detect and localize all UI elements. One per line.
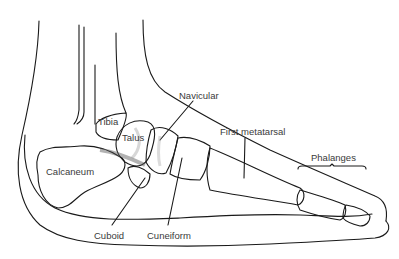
fibula-shaft: [74, 25, 79, 124]
label-phalanges: Phalanges: [311, 153, 356, 163]
label-tibia: Tibia: [98, 117, 118, 127]
label-talus: Talus: [122, 133, 144, 143]
navicular-bone: [146, 128, 178, 174]
foot-anatomy-diagram: Tibia Talus Navicular First metatarsal P…: [0, 0, 399, 259]
first-metatarsal-leader: [244, 138, 245, 178]
cuneiform-bone: [170, 137, 210, 180]
phalanges-bracket: [298, 164, 366, 169]
foot-outline-drawing: [0, 0, 399, 259]
cuboid-bone: [128, 166, 150, 188]
leg-front-dorsum: [143, 20, 387, 221]
label-first-metatarsal: First metatarsal: [220, 127, 285, 137]
label-cuneiform: Cuneiform: [147, 231, 191, 241]
heel-contour: [24, 135, 372, 219]
label-calcaneum: Calcaneum: [46, 167, 94, 177]
tibia-shaft: [116, 33, 126, 113]
fibula-shaft-2: [77, 27, 84, 124]
joint-shading: [100, 150, 145, 165]
first-metatarsal-bone: [207, 148, 304, 205]
label-cuboid: Cuboid: [94, 231, 124, 241]
label-navicular: Navicular: [179, 91, 219, 101]
cuneiform-leader: [168, 158, 182, 225]
cuboid-leader: [112, 178, 145, 225]
leg-back-outline: [18, 21, 389, 246]
